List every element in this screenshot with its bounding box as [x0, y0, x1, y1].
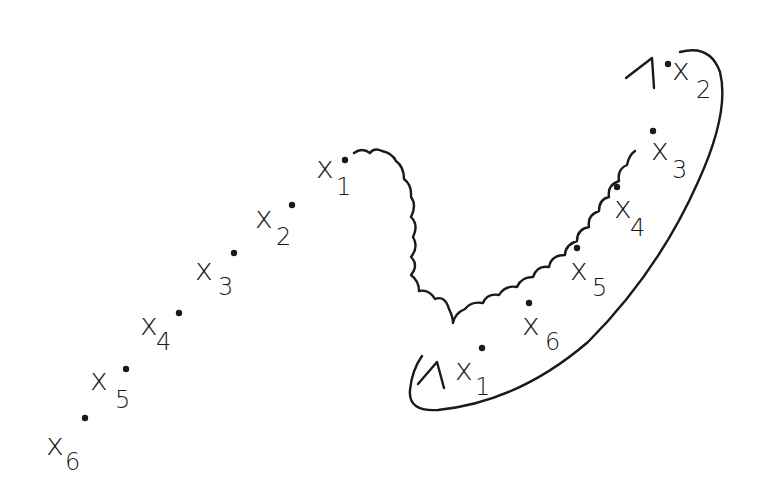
left-dot-4: [176, 310, 182, 316]
right-label-x6: x: [522, 307, 540, 342]
left-label-x6: x: [46, 427, 64, 462]
right-subscript-6: 6: [545, 328, 560, 356]
left-subscript-4: 4: [156, 328, 171, 356]
right-dot-1: [479, 345, 485, 351]
left-subscript-5: 5: [115, 386, 130, 414]
left-label-x1: x: [316, 150, 334, 185]
left-subscript-2: 2: [276, 223, 291, 251]
arrowhead-top-icon: [626, 58, 654, 88]
right-label-x2: x: [672, 52, 690, 87]
right-label-x3: x: [651, 132, 669, 167]
right-subscript-2: 2: [696, 76, 711, 104]
right-dot-6: [526, 300, 532, 306]
left-label-x3: x: [195, 252, 213, 287]
left-dot-6: [82, 415, 88, 421]
left-dot-5: [123, 366, 129, 372]
right-subscript-4: 4: [630, 214, 645, 242]
left-dot-2: [289, 202, 295, 208]
left-dot-3: [231, 250, 237, 256]
left-subscript-1: 1: [336, 173, 351, 201]
right-label-x1: x: [455, 352, 473, 387]
left-dot-1: [342, 157, 348, 163]
left-subscript-6: 6: [65, 448, 80, 476]
right-sequence: x1x2x3x4x5x6: [455, 52, 711, 401]
right-dot-2: [665, 61, 671, 67]
right-dot-5: [574, 245, 580, 251]
left-sequence: x1x2x3x4x5x6: [46, 150, 351, 476]
left-label-x5: x: [90, 362, 108, 397]
left-label-x2: x: [255, 200, 273, 235]
right-subscript-5: 5: [592, 274, 607, 302]
right-subscript-3: 3: [672, 156, 687, 184]
left-subscript-3: 3: [218, 273, 233, 301]
right-label-x5: x: [570, 252, 588, 287]
sequence-diagram: x1x2x3x4x5x6 x1x2x3x4x5x6: [0, 0, 767, 503]
arrowhead-bottom-icon: [418, 362, 444, 388]
right-subscript-1: 1: [475, 373, 490, 401]
